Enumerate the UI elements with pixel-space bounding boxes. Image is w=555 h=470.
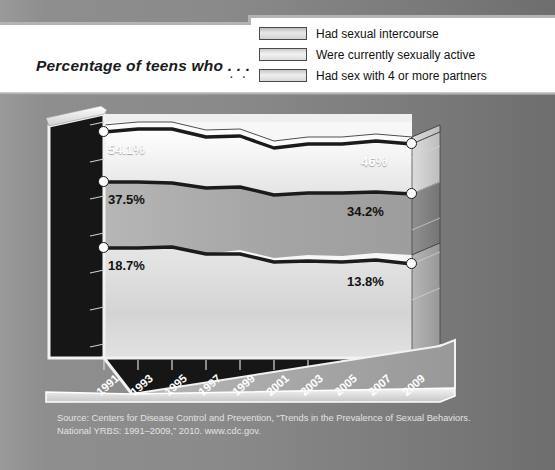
legend-item: Were currently sexually active: [259, 45, 487, 64]
data-point-marker: [406, 258, 417, 269]
x-tick-label: 2007: [366, 372, 393, 398]
data-point-marker: [98, 242, 109, 253]
legend-item: Had sexual intercourse: [259, 24, 487, 43]
data-point-marker: [406, 188, 417, 199]
legend-item-label: Had sex with 4 or more partners: [316, 69, 487, 83]
x-tick-label: 2003: [298, 372, 325, 398]
data-label-intercourse-2009: 46%: [361, 154, 387, 169]
x-tick-label: 1997: [196, 372, 223, 398]
x-tick-label: 2001: [264, 372, 291, 398]
chart-legend: Had sexual intercourse Were currently se…: [259, 24, 487, 87]
source-line-2: National YRBS: 1991–2009,” 2010. www.cdc…: [57, 425, 477, 438]
source-citation: Source: Centers for Disease Control and …: [57, 412, 477, 438]
data-point-marker: [98, 176, 109, 187]
x-tick-label: 1999: [230, 372, 257, 398]
legend-swatch-icon: [259, 69, 307, 82]
data-point-marker: [98, 126, 109, 137]
legend-item-label: Had sexual intercourse: [316, 27, 439, 41]
legend-item: Had sex with 4 or more partners: [259, 66, 487, 85]
x-tick-label: 2009: [400, 372, 427, 398]
x-tick-label: 2005: [332, 372, 359, 398]
page-title: Percentage of teens who . . .: [36, 57, 250, 75]
chart-canvas: 60% 50% 40% 30% 20% 10% 0% 1991 1993 199…: [0, 92, 555, 412]
data-label-partners-1991: 18.7%: [108, 258, 145, 273]
decorative-dots: · ·: [229, 68, 248, 84]
data-label-active-1991: 37.5%: [108, 192, 145, 207]
x-axis-labels: 1991 1993 1995 1997 1999 2001 2003 2005 …: [46, 342, 466, 398]
x-tick-label: 1995: [162, 372, 189, 398]
legend-item-label: Were currently sexually active: [316, 48, 475, 62]
x-tick-label: 1991: [94, 372, 121, 398]
data-label-active-2009: 34.2%: [347, 204, 384, 219]
chart-infographic: Percentage of teens who . . . · · Had se…: [0, 0, 555, 470]
data-label-partners-2009: 13.8%: [347, 274, 384, 289]
x-tick-label: 1993: [128, 372, 155, 398]
data-point-marker: [406, 138, 417, 149]
legend-swatch-icon: [259, 27, 307, 40]
legend-swatch-icon: [259, 48, 307, 61]
source-line-1: Source: Centers for Disease Control and …: [57, 412, 477, 425]
data-label-intercourse-1991: 54.1%: [108, 142, 145, 157]
